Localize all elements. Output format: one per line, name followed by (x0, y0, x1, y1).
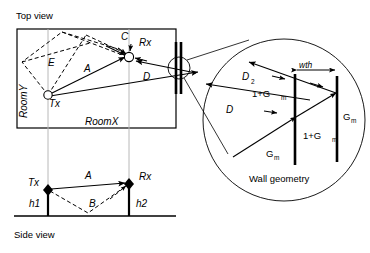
antenna-rx-side (124, 178, 134, 190)
label-gain-incident: G (266, 148, 273, 159)
label-gain-plus-upper-subscript: m (281, 94, 286, 101)
label-tx-top-view: Tx (49, 98, 61, 109)
ray-tick-1 (264, 111, 277, 113)
incident-ray (233, 117, 296, 157)
side-view-group: Tx Rx A B h1 h2 Side view (14, 170, 176, 240)
label-d2-subscript: 2 (251, 78, 255, 85)
label-ray-c: C (121, 31, 129, 42)
label-gain-right: G (343, 111, 350, 122)
reflection-path-e-cross (22, 43, 90, 62)
label-gain-incident-subscript: m (274, 154, 279, 161)
antenna-tx-side (43, 184, 53, 196)
label-ray-e: E (48, 57, 55, 68)
wall-geometry-caption: Wall geometry (249, 173, 310, 184)
label-h2: h2 (136, 198, 148, 209)
ray-tick-2 (272, 76, 285, 79)
label-wall-thickness: wth (299, 60, 313, 70)
internal-ray-forward (296, 93, 336, 117)
direct-path-a-side (51, 183, 125, 189)
top-view-title: Top view (16, 10, 53, 21)
label-ray-b: B (89, 198, 96, 209)
label-gain-plus-lower-subscript: m (332, 136, 337, 143)
label-gain-right-subscript: m (351, 117, 356, 124)
label-room-y: RoomY (18, 83, 29, 118)
label-room-x: RoomX (85, 116, 119, 127)
room-rectangle-top-view (17, 29, 176, 128)
label-gain-plus-lower: 1+G (303, 130, 321, 141)
label-d2: D (242, 71, 249, 82)
reflection-path-e (22, 32, 118, 95)
label-tx-side-view: Tx (28, 177, 40, 188)
ground-reflection-path-b (50, 186, 126, 213)
rx-stub-3 (130, 44, 131, 51)
label-h1: h1 (29, 198, 40, 209)
label-rx-top-view: Rx (139, 37, 152, 48)
label-gain-plus-upper: 1+G (252, 88, 270, 99)
reflection-path-c-incident (62, 32, 125, 56)
label-ray-d-top-view: D (143, 71, 150, 82)
label-d: D (226, 104, 233, 115)
label-ray-a-side-view: A (84, 170, 92, 181)
label-ray-a-top-view: A (83, 63, 91, 74)
label-rx-side-view: Rx (139, 171, 152, 182)
wall-geometry-inset: wth D 2 D 1+G m 1+G m G m G m Wall geome… (203, 39, 365, 201)
rx-stub-2 (135, 58, 147, 61)
side-view-title: Side view (14, 229, 55, 240)
wireless-propagation-diagram: Top view Tx Rx A C D E RoomX RoomY (0, 0, 370, 253)
diagram-canvas: Top view Tx Rx A C D E RoomX RoomY (0, 0, 370, 253)
lens-connector-top (187, 40, 249, 60)
